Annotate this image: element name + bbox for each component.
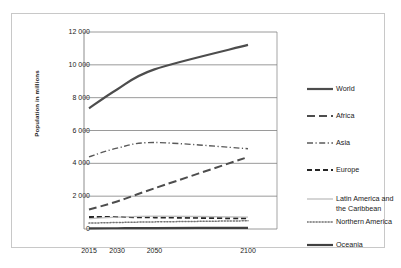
- x-axis-tick-label: 2030: [97, 247, 137, 254]
- legend-swatch-icon: [307, 138, 333, 148]
- legend-item[interactable]: Asia: [307, 138, 350, 150]
- series-line: [89, 45, 248, 108]
- legend-swatch-icon: [307, 84, 333, 94]
- legend-swatch-icon: [307, 111, 333, 121]
- legend-item[interactable]: World: [307, 84, 355, 96]
- legend-label: Africa: [336, 111, 354, 121]
- chart-frame: Population in millions 02 0004 0006 0008…: [11, 13, 385, 248]
- series-line: [89, 157, 248, 210]
- legend-swatch-icon: [307, 217, 333, 227]
- legend-swatch-icon: [307, 240, 333, 250]
- legend-label: Europe: [336, 165, 359, 175]
- legend-item[interactable]: Africa: [307, 111, 354, 123]
- legend-label: Asia: [336, 138, 350, 148]
- legend-item[interactable]: Europe: [307, 165, 359, 177]
- legend-label: World: [336, 84, 355, 94]
- chart-figure: Population in millions 02 0004 0006 0008…: [0, 0, 401, 268]
- legend-label: Latin America and the Caribbean: [336, 194, 394, 213]
- x-axis-tick-label: 2100: [228, 247, 268, 254]
- legend-label: Oceania: [336, 240, 363, 250]
- legend-item[interactable]: Northern America: [307, 217, 392, 229]
- data-series: [89, 45, 248, 228]
- legend-item[interactable]: Latin America and the Caribbean: [307, 194, 394, 206]
- plot-area: [12, 14, 384, 247]
- legend-item[interactable]: Oceania: [307, 240, 363, 252]
- series-line: [89, 143, 248, 157]
- x-axis-tick-label: 2050: [134, 247, 174, 254]
- legend-swatch-icon: [307, 165, 333, 175]
- legend-label: Northern America: [336, 217, 392, 227]
- series-line: [89, 216, 248, 218]
- series-line: [89, 228, 248, 229]
- legend-swatch-icon: [307, 194, 333, 204]
- series-line: [89, 221, 248, 223]
